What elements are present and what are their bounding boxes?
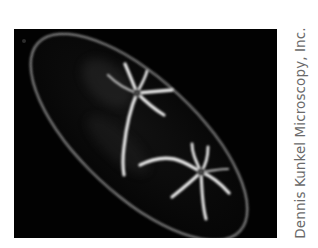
cell-membrane: [14, 29, 277, 238]
speckle: [22, 39, 26, 43]
micrograph-photo: [14, 29, 277, 238]
cell-illustration: [14, 29, 277, 238]
photo-credit: Dennis Kunkel Microscopy, Inc.: [292, 27, 308, 238]
